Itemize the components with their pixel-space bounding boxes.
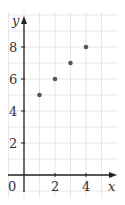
x-axis-label: x [108, 179, 116, 194]
data-point [37, 93, 42, 98]
x-axis-arrow-icon [109, 172, 117, 178]
x-tick-label: 2 [51, 179, 59, 194]
scatter-chart: 242468 0 x y [0, 0, 125, 205]
data-point [53, 77, 58, 82]
y-tick-label: 6 [9, 72, 17, 87]
data-points [37, 45, 88, 98]
y-tick-label: 2 [9, 136, 17, 151]
tick-marks [21, 47, 86, 177]
y-tick-label: 4 [9, 104, 17, 119]
axes [8, 16, 117, 192]
x-tick-label: 4 [82, 179, 90, 194]
origin-label: 0 [8, 179, 16, 194]
y-axis-label: y [11, 13, 20, 28]
y-axis-arrow-icon [21, 16, 27, 24]
y-tick-label: 8 [9, 40, 17, 55]
data-point [84, 45, 89, 50]
data-point [68, 61, 73, 66]
